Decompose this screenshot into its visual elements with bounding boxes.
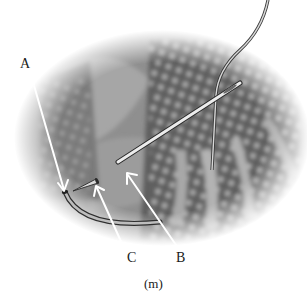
label-c: C: [127, 251, 136, 265]
figure-caption: (m): [144, 277, 163, 290]
label-b: B: [176, 251, 185, 265]
label-a: A: [20, 57, 30, 71]
